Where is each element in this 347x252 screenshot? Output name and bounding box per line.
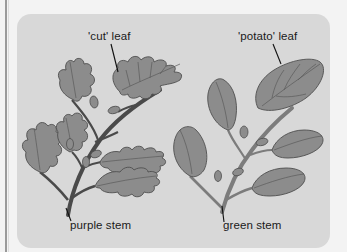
potato-leaf-plant: [174, 59, 324, 212]
cut-leaf-label: 'cut' leaf: [88, 30, 130, 42]
cut-leaf-plant: [22, 56, 181, 215]
potato-leaf-label: 'potato' leaf: [238, 30, 297, 42]
purple-stem-label: purple stem: [70, 219, 131, 231]
green-stem-label: green stem: [223, 219, 282, 231]
potato-leaf-pointer: [273, 44, 281, 64]
diagram-frame: .lf { fill: #8c8c8c; stroke: #4f4f4f; st…: [0, 0, 347, 252]
cut-leaf-pointer: [111, 44, 118, 72]
